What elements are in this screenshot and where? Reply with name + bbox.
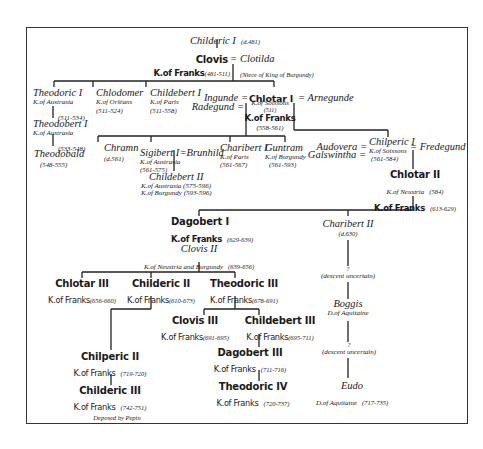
descent-uncertain-2: ? (descent uncertain): [322, 342, 376, 356]
person-name: Sigibert I: [140, 147, 179, 158]
node-chlotar-iii: Chlotar III K.of Franks(656-660): [48, 279, 116, 306]
person-name: Charibert II: [322, 219, 373, 230]
person-title-2: K.of Burgundy (593-596): [141, 190, 212, 197]
person-name: Eudo: [316, 381, 388, 392]
person-name: Dagobert III: [214, 348, 286, 358]
person-dates: (561-584): [371, 156, 415, 163]
node-guntram: Guntram K.of Burgundy (561-593): [265, 143, 306, 168]
node-charibert-i: Charibert I K.of Paris (561-567): [220, 143, 268, 168]
clovis-title: K.of Franks(481-511): [154, 63, 230, 79]
person-name: Chramn: [104, 143, 138, 154]
person-name: Theodobert I: [33, 119, 88, 130]
uncertain-label: (descent uncertain): [321, 273, 375, 280]
node-theodoric-i: Theodoric I K.of Austrasia: [33, 88, 82, 106]
person-name: Charibert I: [220, 143, 268, 154]
person-name: Clovis II: [144, 244, 254, 255]
spouse-galswintha: Galswintha =: [308, 145, 366, 161]
person-dates: (d.630): [322, 231, 373, 238]
marriage-sign: =: [230, 49, 237, 65]
person-name: Chlodomer: [96, 88, 143, 99]
person-name: Theodoric III: [210, 279, 278, 289]
person-name: Theodobald: [34, 149, 84, 160]
uncertain-label: (descent uncertain): [322, 349, 376, 356]
person-name: Childebert III: [245, 316, 316, 326]
node-eudo: Eudo D.of Aquitaine (717-735): [316, 381, 388, 408]
person-name: Childeric I: [190, 35, 236, 46]
node-theodoric-iii: Theodoric III K.of Franks(678-691): [210, 279, 278, 306]
chlotar-i-titles: K.of Soissons (511) K.of Franks (558-561…: [245, 100, 296, 131]
spouse-radegund: Radegund =: [192, 97, 244, 113]
person-name: Clotilda: [240, 53, 274, 64]
person-dates: (561-593): [269, 162, 306, 169]
node-theodobert-i: Theodobert I K.of Austrasia: [33, 119, 88, 137]
person-name: Theodoric IV: [217, 382, 290, 392]
node-childeric-ii: Childeric II K.of Franks(610-673): [127, 279, 195, 306]
person-name: Boggis: [327, 299, 368, 310]
node-childeric-iii: Childeric III K.of Franks (742-751) Depo…: [74, 386, 147, 422]
node-theodoric-iv: Theodoric IV K.of Franks (720-737): [217, 382, 290, 409]
node-charibert-ii: Charibert II (d.630): [322, 219, 373, 237]
spouse-arnegunde: = Arnegunde: [298, 88, 354, 104]
node-chlotar-ii: Chlotar II K.of Neustria (584) K.of Fran…: [374, 170, 456, 214]
person-name: Theodoric I: [33, 88, 82, 99]
node-clovis-iii: Clovis III K.of Franks(691-695): [161, 316, 229, 343]
node-clotilda: Clotilda: [240, 49, 274, 65]
node-boggis: Boggis D.of Aquitaine: [327, 299, 368, 317]
person-title: K.of Burgundy: [265, 154, 306, 161]
person-dates: (561-567): [220, 162, 268, 169]
person-name: Guntram: [265, 143, 306, 154]
person-name: Childeric II: [127, 279, 195, 289]
person-title: D.of Aquitaine: [327, 310, 368, 317]
descent-uncertain-1: ? (descent uncertain): [321, 266, 375, 280]
spouse-fredegund: = Fredegund: [410, 137, 465, 153]
node-dagobert-iii: Dagobert III K.of Franks (711-716): [214, 348, 286, 375]
person-dates: (d.481): [241, 38, 260, 45]
node-theodobald: Theodobald (548-555): [34, 149, 84, 168]
person-name: Dagobert I: [171, 217, 253, 227]
person-dates: (d.561): [104, 156, 138, 163]
person-name: Chilperic II: [74, 352, 147, 362]
person-title: K.of Paris: [220, 154, 268, 161]
node-sigibert-i: Sigibert I=Brunhild K.of Austrasia (561-…: [140, 143, 224, 174]
person-name: Chlotar II: [374, 170, 456, 180]
node-chilperic-ii: Chilperic II K.of Franks (719-720): [74, 352, 147, 379]
node-clovis-ii: Clovis II K.of Neustria and Burgundy (63…: [144, 244, 254, 272]
node-chlodomer: Chlodomer K.of Orléans (511-524): [96, 88, 143, 114]
node-dagobert-i: Dagobert I K.of Franks (629-639): [171, 217, 253, 245]
person-note: Deposed by Pepin: [88, 415, 147, 422]
clotilda-note: (Niece of King of Burgundy): [240, 64, 314, 80]
person-title: K.of Austrasia: [33, 130, 88, 137]
node-chilperic-i: Chilperic I K.of Soissons (561-584): [369, 137, 415, 162]
person-name: Childeric III: [74, 386, 147, 396]
person-title: K.of Austrasia: [33, 99, 82, 106]
person-dates: (548-555): [40, 162, 84, 169]
spouse-brunhild: Brunhild: [186, 147, 223, 158]
node-chramn: Chramn (d.561): [104, 143, 138, 162]
person-title: K.of Austrasia: [140, 159, 224, 166]
node-childebert-iii: Childebert III K.of Franks(695-711): [245, 316, 316, 343]
person-name: Clovis III: [161, 316, 229, 326]
node-childeric-i: Childeric I (d.481): [190, 31, 260, 47]
person-title: K.of Orléans: [96, 99, 143, 106]
person-name: Chilperic I: [369, 137, 415, 148]
person-dates: (511-524): [96, 108, 143, 115]
person-name: Chlotar III: [48, 279, 116, 289]
person-dates: (717-735): [362, 399, 388, 406]
person-name: Childebert II: [149, 172, 212, 183]
node-childebert-ii: Childebert II K.of Austrasia (575-596) K…: [141, 172, 212, 197]
person-title: K.of Soissons: [369, 148, 415, 155]
person-title: D.of Aquitaine: [316, 399, 357, 407]
